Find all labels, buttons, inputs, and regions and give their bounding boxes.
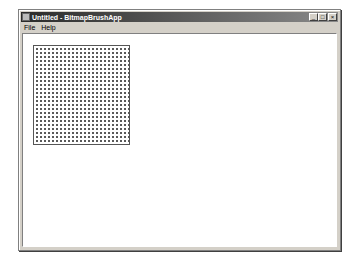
maximize-button[interactable]: □ <box>318 13 327 21</box>
client-area[interactable] <box>22 33 337 247</box>
app-window: Untitled - BitmapBrushApp _ □ × File Hel… <box>18 9 341 251</box>
menu-file[interactable]: File <box>21 24 38 31</box>
window-controls: _ □ × <box>309 13 337 21</box>
close-button[interactable]: × <box>328 13 337 21</box>
title-bar[interactable]: Untitled - BitmapBrushApp _ □ × <box>21 12 338 22</box>
bitmap-brush-rectangle <box>33 45 130 145</box>
minimize-button[interactable]: _ <box>309 13 318 21</box>
menu-help[interactable]: Help <box>38 24 58 31</box>
menu-bar: File Help <box>21 23 338 32</box>
window-title: Untitled - BitmapBrushApp <box>32 14 122 21</box>
app-icon[interactable] <box>22 13 30 21</box>
